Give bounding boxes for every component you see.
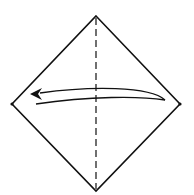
diagram-canvas <box>0 0 194 195</box>
left-corner-dot <box>10 102 13 105</box>
right-corner-dot <box>178 102 181 105</box>
origami-diagram <box>0 0 194 195</box>
